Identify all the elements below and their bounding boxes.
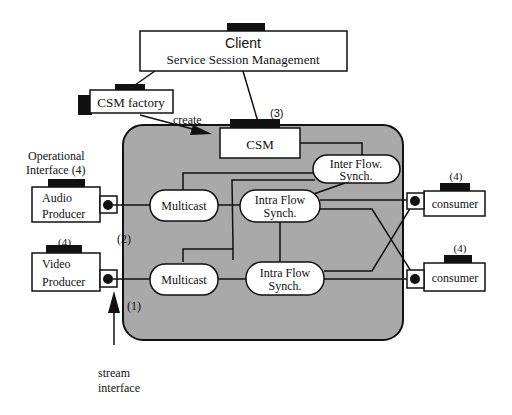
multicast-bottom-label: Multicast — [161, 273, 207, 287]
intra-flow-top-line2: Synch. — [264, 206, 297, 220]
operational-interface-line2: Interface (4) — [26, 163, 86, 177]
stream-interface-line2: interface — [98, 381, 140, 395]
intra-flow-bottom-line2: Synch. — [269, 279, 302, 293]
video-stream-port-dot-icon — [103, 274, 113, 284]
audio-producer-line2: Producer — [42, 207, 85, 221]
csm-interface-tab — [230, 119, 280, 128]
client-title: Client — [225, 35, 261, 51]
csm-marker: (3) — [270, 107, 283, 119]
csm-label: CSM — [246, 137, 274, 152]
client-to-csm-line — [243, 71, 258, 122]
video-producer-line1: Video — [42, 257, 71, 271]
video-producer-line2: Producer — [42, 275, 85, 289]
multicast-top-label: Multicast — [161, 199, 207, 213]
stream-arrowhead-icon — [108, 291, 120, 313]
consumer-bottom-label: consumer — [432, 271, 479, 285]
marker-2: (2) — [117, 232, 131, 246]
csm-factory-label: CSM factory — [97, 95, 165, 110]
operational-interface-line1: Operational — [28, 149, 85, 163]
consumer-bottom-tab — [444, 255, 472, 263]
audio-producer-line1: Audio — [42, 191, 72, 205]
client-to-factory-line — [135, 71, 155, 85]
audio-stream-port-dot-icon — [103, 200, 113, 210]
consumer-bottom-marker: (4) — [454, 242, 467, 255]
client-subtitle: Service Session Management — [166, 52, 319, 67]
consumer-top-label: consumer — [432, 197, 479, 211]
consumer-top-port-dot-icon — [410, 196, 420, 206]
consumer-top-marker: (4) — [450, 170, 463, 183]
intra-flow-top-line1: Intra Flow — [255, 193, 306, 207]
audio-producer-tab — [48, 179, 85, 187]
stream-interface-line1: stream — [98, 366, 131, 380]
consumer-bottom-port-dot-icon — [410, 274, 420, 284]
marker-1: (1) — [127, 299, 141, 313]
session-management-diagram: Client Service Session Management CSM fa… — [0, 0, 512, 415]
consumer-top-tab — [440, 183, 470, 191]
intra-flow-bottom-line1: Intra Flow — [260, 266, 311, 280]
inter-flow-synch-line2: Synch. — [340, 169, 373, 183]
